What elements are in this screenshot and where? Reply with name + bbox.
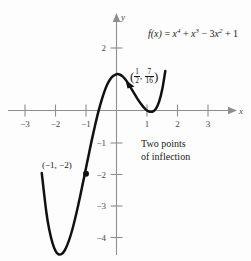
y-tick-label--3: −3 xyxy=(96,201,106,211)
y-tick-label--4: −4 xyxy=(96,233,106,243)
y-axis-name: y xyxy=(120,12,125,22)
x-tick-label--1: −1 xyxy=(81,119,91,129)
fraction-denominator: 16 xyxy=(145,77,154,85)
y-tick-label-2: 2 xyxy=(102,43,107,53)
inflection-note: Two points of inflection xyxy=(141,137,190,163)
x-tick-label-3: 3 xyxy=(206,119,211,129)
y-axis-arrow-icon xyxy=(113,13,121,22)
function-label-text: f(x) = x4 + x3 − 3x2 + 1 xyxy=(148,28,238,39)
x-tick-label--2: −2 xyxy=(51,119,61,129)
x-axis-arrow-icon xyxy=(228,107,237,115)
inflection-point-label-left: (−1, −2) xyxy=(42,160,72,171)
y-tick-label--2: −2 xyxy=(96,170,106,180)
paren-close: ) xyxy=(154,69,158,84)
inflection-point-marker-left xyxy=(83,171,89,177)
y-axis: 2 −1 −2 −3 −4 y xyxy=(96,12,125,255)
inflection-note-line-2: of inflection xyxy=(141,150,190,163)
inflection-note-line-1: Two points xyxy=(141,137,190,150)
x-tick-label-1: 1 xyxy=(145,119,150,129)
y-tick-label--1: −1 xyxy=(96,138,106,148)
function-label: f(x) = x4 + x3 − 3x2 + 1 xyxy=(148,27,238,41)
x-tick-label-2: 2 xyxy=(175,119,180,129)
inflection-point-label-right: (12, 716) xyxy=(130,68,158,84)
graph-figure: −3 −2 −1 1 2 3 x 2 −1 −2 −3 −4 y xyxy=(0,0,251,261)
fraction-seven-sixteenths: 716 xyxy=(145,68,154,84)
x-tick-label--3: −3 xyxy=(20,119,30,129)
x-axis-name: x xyxy=(238,106,243,116)
x-axis: −3 −2 −1 1 2 3 x xyxy=(8,105,243,130)
